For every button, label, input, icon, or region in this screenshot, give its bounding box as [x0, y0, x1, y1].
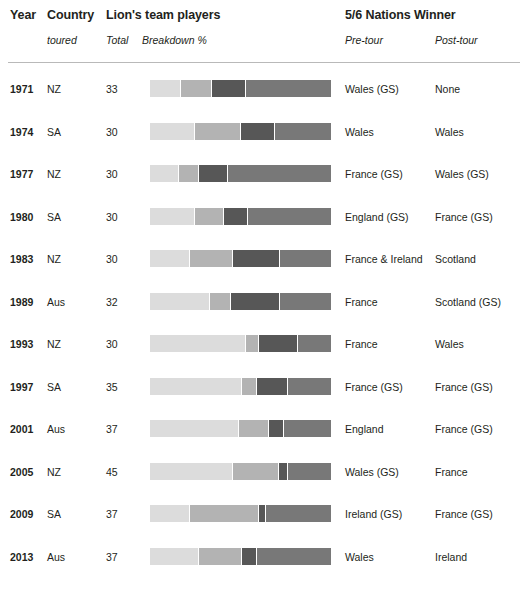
subheader-total: Total — [106, 34, 128, 46]
stacked-bar — [150, 208, 331, 225]
cell-country: Aus — [47, 423, 65, 435]
bar-segment-3 — [233, 250, 280, 267]
cell-year: 2009 — [10, 508, 33, 520]
bar-segment-4 — [228, 165, 331, 182]
bar-segment-2 — [195, 123, 240, 140]
subheader-toured: toured — [47, 34, 77, 46]
bar-segment-1 — [150, 548, 199, 565]
table-body: 1971NZ33Wales (GS)None1974SA30WalesWales… — [0, 68, 526, 578]
bar-segment-1 — [150, 420, 239, 437]
bar-segment-3 — [231, 293, 280, 310]
cell-pre_tour: England — [345, 423, 384, 435]
bar-segment-2 — [210, 293, 232, 310]
table-row: 1989Aus32FranceScotland (GS) — [0, 281, 526, 324]
bar-segment-2 — [190, 250, 233, 267]
cell-post_tour: France (GS) — [435, 508, 493, 520]
bar-segment-1 — [150, 165, 179, 182]
cell-pre_tour: France — [345, 296, 378, 308]
cell-year: 1977 — [10, 168, 33, 180]
cell-year: 2005 — [10, 466, 33, 478]
table-row: 2001Aus37EnglandFrance (GS) — [0, 408, 526, 451]
bar-segment-2 — [246, 335, 259, 352]
bar-segment-2 — [233, 463, 278, 480]
cell-pre_tour: Wales (GS) — [345, 466, 399, 478]
cell-pre_tour: France (GS) — [345, 381, 403, 393]
bar-segment-3 — [259, 335, 299, 352]
cell-country: SA — [47, 211, 61, 223]
cell-total: 30 — [106, 253, 118, 265]
cell-total: 30 — [106, 126, 118, 138]
bar-segment-4 — [266, 505, 331, 522]
cell-post_tour: None — [435, 83, 460, 95]
stacked-bar — [150, 123, 331, 140]
table-row: 1977NZ30France (GS)Wales (GS) — [0, 153, 526, 196]
cell-year: 1980 — [10, 211, 33, 223]
cell-year: 2013 — [10, 551, 33, 563]
subheader-pre-tour: Pre-tour — [345, 34, 383, 46]
cell-post_tour: France (GS) — [435, 423, 493, 435]
bar-segment-3 — [259, 505, 266, 522]
cell-country: Aus — [47, 551, 65, 563]
cell-year: 1974 — [10, 126, 33, 138]
cell-pre_tour: Wales (GS) — [345, 83, 399, 95]
cell-year: 1971 — [10, 83, 33, 95]
stacked-bar — [150, 548, 331, 565]
cell-total: 37 — [106, 551, 118, 563]
bar-segment-1 — [150, 208, 195, 225]
bar-segment-4 — [275, 123, 331, 140]
cell-pre_tour: Wales — [345, 126, 374, 138]
bar-segment-2 — [181, 80, 212, 97]
cell-pre_tour: France (GS) — [345, 168, 403, 180]
table-row: 1971NZ33Wales (GS)None — [0, 68, 526, 111]
bar-segment-3 — [241, 123, 275, 140]
bar-segment-1 — [150, 123, 195, 140]
stacked-bar — [150, 293, 331, 310]
bar-segment-2 — [179, 165, 199, 182]
bar-segment-4 — [284, 420, 331, 437]
cell-post_tour: France — [435, 466, 468, 478]
lions-tours-table: Year Country Lion's team players 5/6 Nat… — [0, 0, 526, 615]
bar-segment-1 — [150, 463, 233, 480]
table-row: 2009SA37Ireland (GS)France (GS) — [0, 493, 526, 536]
cell-total: 35 — [106, 381, 118, 393]
cell-total: 45 — [106, 466, 118, 478]
cell-pre_tour: France & Ireland — [345, 253, 423, 265]
cell-country: Aus — [47, 296, 65, 308]
cell-post_tour: Scotland (GS) — [435, 296, 501, 308]
cell-year: 1993 — [10, 338, 33, 350]
stacked-bar — [150, 80, 331, 97]
bar-segment-1 — [150, 378, 242, 395]
table-row: 1974SA30WalesWales — [0, 111, 526, 154]
cell-country: NZ — [47, 168, 61, 180]
bar-segment-2 — [190, 505, 259, 522]
cell-pre_tour: France — [345, 338, 378, 350]
bar-segment-3 — [257, 378, 288, 395]
cell-total: 30 — [106, 168, 118, 180]
cell-total: 30 — [106, 338, 118, 350]
bar-segment-4 — [288, 463, 331, 480]
table-row: 1983NZ30France & IrelandScotland — [0, 238, 526, 281]
bar-segment-1 — [150, 80, 181, 97]
column-header-players: Lion's team players — [106, 8, 220, 22]
bar-segment-3 — [199, 165, 228, 182]
cell-post_tour: Wales (GS) — [435, 168, 489, 180]
cell-total: 32 — [106, 296, 118, 308]
header-divider — [8, 62, 520, 63]
bar-segment-1 — [150, 293, 210, 310]
bar-segment-2 — [195, 208, 224, 225]
cell-year: 1989 — [10, 296, 33, 308]
stacked-bar — [150, 505, 331, 522]
bar-segment-4 — [280, 250, 331, 267]
bar-segment-3 — [269, 420, 283, 437]
bar-segment-1 — [150, 250, 190, 267]
table-row: 2005NZ45Wales (GS)France — [0, 451, 526, 494]
cell-pre_tour: England (GS) — [345, 211, 409, 223]
cell-post_tour: Scotland — [435, 253, 476, 265]
cell-country: NZ — [47, 83, 61, 95]
cell-post_tour: France (GS) — [435, 211, 493, 223]
cell-total: 33 — [106, 83, 118, 95]
bar-segment-2 — [239, 420, 270, 437]
subheader-breakdown: Breakdown % — [142, 34, 207, 46]
stacked-bar — [150, 165, 331, 182]
cell-pre_tour: Wales — [345, 551, 374, 563]
